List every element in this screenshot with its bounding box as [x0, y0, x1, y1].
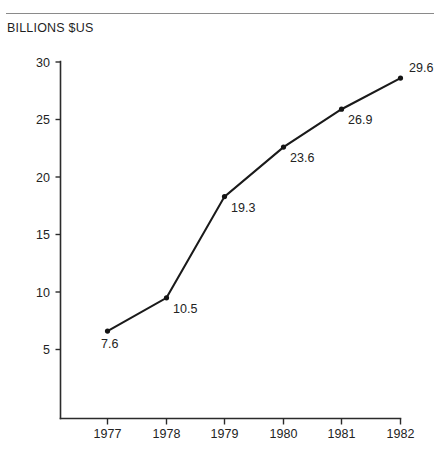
- chart-figure: BILLIONS $US 30 25 20 15 10 5: [0, 0, 448, 455]
- y-tick-label-30: 30: [36, 56, 50, 70]
- y-tick-label-5: 5: [43, 343, 50, 357]
- x-tick-label-1980: 1980: [270, 427, 298, 441]
- y-tick-label-15: 15: [36, 228, 50, 242]
- x-axis-ticks: [108, 419, 401, 425]
- data-label-1982: 29.6: [409, 61, 433, 75]
- data-label-1978: 10.5: [173, 302, 197, 316]
- data-point-1982: [398, 76, 403, 81]
- x-axis-tick-labels: 1977 1978 1979 1980 1981 1982: [94, 427, 415, 441]
- x-tick-label-1977: 1977: [94, 427, 122, 441]
- data-point-1981: [339, 107, 344, 112]
- x-tick-label-1978: 1978: [153, 427, 181, 441]
- x-tick-label-1979: 1979: [211, 427, 239, 441]
- line-chart-plot: 30 25 20 15 10 5 1977 1978 1979 1980 198…: [0, 0, 448, 455]
- data-label-1977: 7.6: [101, 337, 118, 351]
- data-point-1979: [222, 194, 227, 199]
- y-tick-label-10: 10: [36, 286, 50, 300]
- data-label-1979: 19.3: [231, 201, 255, 215]
- data-label-1980: 23.6: [290, 151, 314, 165]
- data-label-1981: 26.9: [348, 113, 372, 127]
- x-tick-label-1982: 1982: [387, 427, 415, 441]
- data-point-1977: [105, 329, 110, 334]
- data-point-1978: [164, 295, 169, 300]
- y-tick-label-25: 25: [36, 113, 50, 127]
- data-point-1980: [281, 145, 286, 150]
- y-tick-label-20: 20: [36, 171, 50, 185]
- y-axis-tick-labels: 30 25 20 15 10 5: [36, 56, 50, 358]
- x-tick-label-1981: 1981: [328, 427, 356, 441]
